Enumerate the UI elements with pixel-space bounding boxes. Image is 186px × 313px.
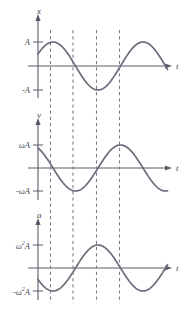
acceleration-time-axis-label: t bbox=[176, 264, 179, 273]
velocity-axis-label: v bbox=[37, 111, 41, 120]
acceleration-tick-label-positive: ω2A bbox=[16, 240, 30, 250]
displacement-tick-label-negative: -A bbox=[22, 86, 30, 95]
panel-displacement bbox=[28, 14, 172, 98]
acceleration-tick-negative-tail: A bbox=[25, 287, 30, 297]
velocity-tick-label-negative: -ωA bbox=[16, 187, 30, 196]
shm-graph-svg bbox=[0, 0, 186, 313]
acceleration-axis-label: a bbox=[37, 211, 42, 220]
shm-graph-figure: x t A -A v t ωA -ωA a t ω2A -ω2A bbox=[0, 0, 186, 313]
panel-velocity bbox=[28, 118, 172, 200]
panel-acceleration bbox=[28, 218, 172, 300]
acceleration-tick-positive-tail: A bbox=[25, 241, 30, 251]
acceleration-tick-label-negative: -ω2A bbox=[13, 286, 30, 296]
displacement-axis-label: x bbox=[37, 7, 41, 16]
displacement-time-axis-label: t bbox=[176, 62, 179, 71]
velocity-time-axis-label: t bbox=[176, 164, 179, 173]
displacement-tick-label-positive: A bbox=[25, 38, 30, 47]
velocity-t-axis-arrow bbox=[165, 165, 172, 170]
velocity-tick-label-positive: ωA bbox=[19, 141, 30, 150]
acceleration-tick-negative-base: -ω bbox=[13, 287, 22, 297]
time-marker-dashed-lines bbox=[51, 30, 120, 303]
